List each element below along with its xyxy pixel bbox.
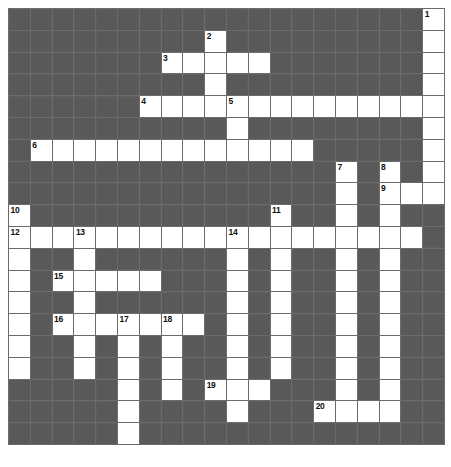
crossword-cell-open[interactable] bbox=[205, 139, 227, 161]
crossword-cell-open[interactable] bbox=[379, 292, 401, 314]
crossword-cell-open[interactable] bbox=[226, 314, 248, 336]
crossword-cell-open[interactable] bbox=[139, 314, 161, 336]
crossword-cell-open[interactable]: 16 bbox=[52, 314, 74, 336]
crossword-cell-open[interactable] bbox=[52, 226, 74, 248]
crossword-cell-open[interactable] bbox=[379, 401, 401, 423]
crossword-cell-open[interactable]: 18 bbox=[161, 314, 183, 336]
crossword-cell-open[interactable] bbox=[335, 183, 357, 205]
crossword-cell-open[interactable] bbox=[74, 270, 96, 292]
crossword-cell-open[interactable] bbox=[401, 226, 423, 248]
crossword-cell-open[interactable] bbox=[161, 226, 183, 248]
crossword-cell-open[interactable]: 14 bbox=[226, 226, 248, 248]
crossword-cell-open[interactable] bbox=[74, 248, 96, 270]
crossword-cell-open[interactable] bbox=[270, 226, 292, 248]
crossword-cell-open[interactable] bbox=[117, 401, 139, 423]
crossword-cell-open[interactable] bbox=[139, 139, 161, 161]
crossword-cell-open[interactable] bbox=[226, 335, 248, 357]
crossword-cell-open[interactable] bbox=[270, 292, 292, 314]
crossword-cell-open[interactable] bbox=[161, 96, 183, 118]
crossword-cell-open[interactable] bbox=[139, 270, 161, 292]
crossword-cell-open[interactable] bbox=[379, 205, 401, 227]
crossword-cell-open[interactable] bbox=[379, 96, 401, 118]
crossword-cell-open[interactable] bbox=[270, 139, 292, 161]
crossword-cell-open[interactable] bbox=[314, 96, 336, 118]
crossword-cell-open[interactable] bbox=[117, 139, 139, 161]
crossword-cell-open[interactable] bbox=[379, 335, 401, 357]
crossword-cell-open[interactable] bbox=[161, 379, 183, 401]
crossword-cell-open[interactable] bbox=[270, 335, 292, 357]
crossword-cell-open[interactable] bbox=[74, 292, 96, 314]
crossword-cell-open[interactable] bbox=[226, 52, 248, 74]
crossword-cell-open[interactable] bbox=[9, 357, 31, 379]
crossword-cell-open[interactable] bbox=[117, 379, 139, 401]
crossword-cell-open[interactable]: 15 bbox=[52, 270, 74, 292]
crossword-cell-open[interactable] bbox=[314, 226, 336, 248]
crossword-cell-open[interactable] bbox=[270, 96, 292, 118]
crossword-cell-open[interactable] bbox=[117, 226, 139, 248]
crossword-cell-open[interactable]: 4 bbox=[139, 96, 161, 118]
crossword-cell-open[interactable] bbox=[183, 314, 205, 336]
crossword-cell-open[interactable]: 11 bbox=[270, 205, 292, 227]
crossword-cell-open[interactable]: 7 bbox=[335, 161, 357, 183]
crossword-cell-open[interactable] bbox=[74, 139, 96, 161]
crossword-cell-open[interactable] bbox=[379, 314, 401, 336]
crossword-cell-open[interactable] bbox=[248, 52, 270, 74]
crossword-cell-open[interactable]: 8 bbox=[379, 161, 401, 183]
crossword-cell-open[interactable]: 20 bbox=[314, 401, 336, 423]
crossword-cell-open[interactable] bbox=[161, 357, 183, 379]
crossword-cell-open[interactable] bbox=[335, 335, 357, 357]
crossword-cell-open[interactable] bbox=[226, 139, 248, 161]
crossword-cell-open[interactable] bbox=[292, 226, 314, 248]
crossword-grid[interactable]: 1234567891011121314151617181920 bbox=[8, 8, 445, 445]
crossword-cell-open[interactable] bbox=[423, 52, 445, 74]
crossword-cell-open[interactable] bbox=[96, 314, 118, 336]
crossword-cell-open[interactable] bbox=[335, 226, 357, 248]
crossword-cell-open[interactable] bbox=[9, 270, 31, 292]
crossword-cell-open[interactable] bbox=[423, 30, 445, 52]
crossword-cell-open[interactable] bbox=[423, 74, 445, 96]
crossword-cell-open[interactable] bbox=[183, 52, 205, 74]
crossword-cell-open[interactable] bbox=[379, 379, 401, 401]
crossword-cell-open[interactable]: 9 bbox=[379, 183, 401, 205]
crossword-cell-open[interactable] bbox=[248, 379, 270, 401]
crossword-cell-open[interactable]: 10 bbox=[9, 205, 31, 227]
crossword-cell-open[interactable] bbox=[183, 139, 205, 161]
crossword-cell-open[interactable]: 17 bbox=[117, 314, 139, 336]
crossword-cell-open[interactable] bbox=[226, 357, 248, 379]
crossword-cell-open[interactable]: 1 bbox=[423, 9, 445, 31]
crossword-cell-open[interactable] bbox=[335, 357, 357, 379]
crossword-cell-open[interactable] bbox=[205, 96, 227, 118]
crossword-cell-open[interactable] bbox=[423, 183, 445, 205]
crossword-cell-open[interactable] bbox=[9, 248, 31, 270]
crossword-cell-open[interactable]: 13 bbox=[74, 226, 96, 248]
crossword-cell-open[interactable] bbox=[30, 226, 52, 248]
crossword-cell-open[interactable]: 2 bbox=[205, 30, 227, 52]
crossword-cell-open[interactable]: 6 bbox=[30, 139, 52, 161]
crossword-cell-open[interactable] bbox=[335, 401, 357, 423]
crossword-cell-open[interactable] bbox=[292, 96, 314, 118]
crossword-cell-open[interactable] bbox=[335, 248, 357, 270]
crossword-cell-open[interactable] bbox=[226, 117, 248, 139]
crossword-cell-open[interactable] bbox=[379, 226, 401, 248]
crossword-cell-open[interactable] bbox=[74, 357, 96, 379]
crossword-cell-open[interactable] bbox=[9, 314, 31, 336]
crossword-cell-open[interactable] bbox=[357, 96, 379, 118]
crossword-cell-open[interactable] bbox=[423, 161, 445, 183]
crossword-cell-open[interactable] bbox=[74, 335, 96, 357]
crossword-cell-open[interactable] bbox=[335, 270, 357, 292]
crossword-cell-open[interactable] bbox=[9, 335, 31, 357]
crossword-cell-open[interactable] bbox=[248, 96, 270, 118]
crossword-cell-open[interactable] bbox=[335, 205, 357, 227]
crossword-cell-open[interactable] bbox=[161, 139, 183, 161]
crossword-cell-open[interactable] bbox=[357, 401, 379, 423]
crossword-cell-open[interactable] bbox=[270, 314, 292, 336]
crossword-cell-open[interactable] bbox=[96, 226, 118, 248]
crossword-cell-open[interactable] bbox=[161, 335, 183, 357]
crossword-cell-open[interactable] bbox=[248, 139, 270, 161]
crossword-cell-open[interactable] bbox=[423, 139, 445, 161]
crossword-cell-open[interactable] bbox=[205, 226, 227, 248]
crossword-cell-open[interactable] bbox=[183, 96, 205, 118]
crossword-cell-open[interactable] bbox=[52, 139, 74, 161]
crossword-cell-open[interactable] bbox=[139, 226, 161, 248]
crossword-cell-open[interactable] bbox=[292, 139, 314, 161]
